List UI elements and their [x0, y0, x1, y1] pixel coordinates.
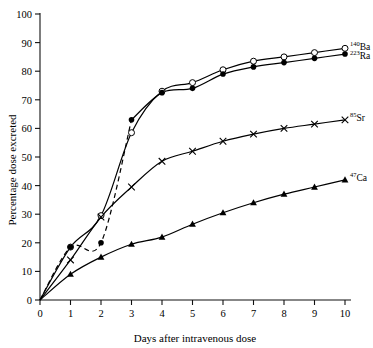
series-label-element: Ra	[360, 51, 371, 61]
marker-filled-circle	[190, 86, 196, 92]
y-tick-label: 0	[27, 295, 32, 306]
marker-filled-circle	[312, 56, 318, 62]
series-label-superscript: 140	[350, 40, 360, 47]
marker-open-circle	[129, 130, 135, 136]
marker-open-circle	[342, 45, 348, 51]
marker-filled-circle	[98, 240, 104, 246]
y-tick-label: 50	[22, 152, 33, 163]
y-tick-label: 20	[22, 238, 33, 249]
x-tick-label: 3	[129, 308, 134, 319]
x-tick-label: 10	[340, 308, 351, 319]
marker-filled-circle	[220, 71, 226, 77]
series-label-element: Ca	[357, 173, 368, 183]
marker-open-circle	[281, 54, 287, 60]
marker-filled-circle	[281, 60, 287, 66]
x-tick-label: 7	[251, 308, 256, 319]
y-tick-label: 100	[16, 9, 32, 20]
chart-figure: Percentage dose excreted Days after intr…	[0, 0, 373, 348]
x-tick-label: 8	[281, 308, 286, 319]
marker-filled-circle	[342, 51, 348, 57]
y-tick-label: 70	[22, 95, 33, 106]
series-label-element: Sr	[357, 113, 366, 123]
marker-filled-circle	[68, 244, 74, 250]
marker-open-circle	[251, 58, 257, 64]
marker-open-circle	[190, 80, 196, 86]
y-tick-label: 90	[22, 38, 33, 49]
y-tick-label: 40	[22, 181, 33, 192]
marker-open-circle	[312, 50, 318, 56]
series-label-superscript: 223	[350, 49, 360, 56]
x-axis-title: Days after intravenous dose	[134, 332, 257, 344]
x-tick-label: 4	[159, 308, 165, 319]
marker-filled-circle	[251, 64, 257, 70]
x-tick-label: 6	[220, 308, 225, 319]
x-tick-label: 2	[98, 308, 103, 319]
x-tick-label: 9	[312, 308, 317, 319]
y-tick-label: 80	[22, 66, 33, 77]
x-tick-label: 1	[68, 308, 73, 319]
marker-filled-circle	[129, 117, 135, 123]
y-tick-label: 30	[22, 209, 33, 220]
marker-filled-circle	[159, 90, 165, 96]
y-tick-label: 10	[22, 266, 33, 277]
x-tick-label: 0	[37, 308, 42, 319]
y-axis-title: Percentage dose excreted	[6, 114, 18, 226]
y-tick-label: 60	[22, 123, 33, 134]
x-tick-label: 5	[190, 308, 195, 319]
excretion-line-chart: Percentage dose excreted Days after intr…	[0, 0, 373, 348]
